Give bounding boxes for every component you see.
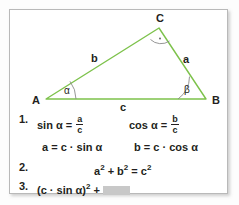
eq1-right-fraction: b c [171,115,179,135]
eq2-equals-c: = c [128,165,147,177]
triangle-drawing [10,10,229,115]
eq1-right-denominator: c [171,125,179,135]
eq1-left-denominator: c [76,125,83,135]
redacted-answer-box [103,186,130,195]
side-label-b: b [91,53,98,64]
equation-1-right: cos α = b c [129,116,179,136]
side-label-a: a [183,54,189,65]
eq1-left-numerator: a [76,115,83,125]
equation-1b-left: a = c · sin α [42,141,102,153]
eq1-left-equals: = [66,119,72,131]
equation-number-3: 3. [19,180,28,192]
eq1-left-lhs: sin α [37,119,63,131]
eq2-plus-b: + b [105,165,124,177]
equation-number-2: 2. [19,161,28,173]
eq1-right-lhs: cos α [129,119,158,131]
side-label-c: c [120,102,126,113]
angle-label-alpha: α [64,86,70,96]
equation-row-3: 3. (c · sin α)2 + [10,180,229,202]
equation-number-1: 1. [19,113,28,125]
vertex-label-b: B [212,95,220,106]
vertex-label-a: A [32,95,40,106]
equation-row-1b: a = c · sin α b = c · cos α [10,139,229,161]
vertex-label-c: C [156,13,164,24]
equation-3-body: (c · sin α)2 + [37,182,130,196]
angle-label-beta: β [184,85,190,95]
eq1-right-numerator: b [171,115,179,125]
eq1-left-fraction: a c [76,115,83,135]
equation-row-1: 1. sin α = a c cos α = b c [10,113,229,135]
eq3-expression: (c · sin α) [37,184,86,196]
equation-1-left: sin α = a c [37,116,83,136]
triangle-figure: A B C b a c α β [10,10,229,115]
equation-list: 1. sin α = a c cos α = b c [10,113,229,195]
equation-2-body: a2 + b2 = c2 [94,163,151,177]
figure-card: A B C b a c α β 1. sin α = a c [9,9,228,194]
triangle-outline [46,28,206,99]
eq1-right-equals: = [161,119,167,131]
page-root: A B C b a c α β 1. sin α = a c [0,0,239,205]
eq3-plus: + [90,184,103,196]
eq2-sup-3: 2 [147,163,151,172]
equation-1b-right: b = c · cos α [134,141,198,153]
right-angle-dot [159,38,161,40]
